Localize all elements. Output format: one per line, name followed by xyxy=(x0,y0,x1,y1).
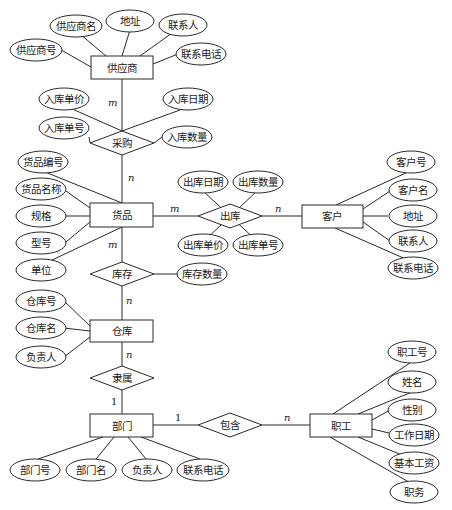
entity-label: 客户 xyxy=(322,210,342,222)
cardinality-outbound-goods: m xyxy=(170,203,179,214)
svg-text:供应商号: 供应商号 xyxy=(16,44,56,56)
relationship-purchase: 采购 xyxy=(90,131,154,155)
attribute-customer-address: 地址 xyxy=(389,205,437,227)
entity-warehouse: 仓库 xyxy=(90,320,153,342)
attribute-outbound-qty: 出库数量 xyxy=(233,171,283,193)
svg-text:部门号: 部门号 xyxy=(20,464,50,476)
attribute-outbound-id: 出库单号 xyxy=(233,234,283,256)
entity-employee: 职工 xyxy=(310,414,372,437)
attribute-supplier-contact: 联系人 xyxy=(159,14,207,36)
svg-text:入库日期: 入库日期 xyxy=(168,93,208,105)
svg-text:出库数量: 出库数量 xyxy=(238,176,279,188)
relationship-label: 包含 xyxy=(220,419,241,431)
attribute-inbound-price: 入库单价 xyxy=(39,88,89,110)
svg-text:入库数量: 入库数量 xyxy=(167,131,208,143)
svg-text:职务: 职务 xyxy=(404,486,425,498)
attribute-supplier-address: 地址 xyxy=(106,10,154,32)
attribute-dept-id: 部门号 xyxy=(10,459,60,481)
attribute-employee-title: 职务 xyxy=(390,481,438,503)
svg-text:联系电话: 联系电话 xyxy=(183,464,224,476)
svg-text:工作日期: 工作日期 xyxy=(394,429,434,441)
entity-label: 部门 xyxy=(112,420,132,432)
cardinality-contains-employee: n xyxy=(284,412,290,423)
svg-text:基本工资: 基本工资 xyxy=(394,457,434,469)
attribute-unit: 单位 xyxy=(16,259,66,281)
svg-text:姓名: 姓名 xyxy=(402,376,422,388)
relationship-outbound: 出库 xyxy=(198,204,262,228)
svg-text:联系人: 联系人 xyxy=(168,19,199,31)
attribute-outbound-price: 出库单价 xyxy=(178,234,228,256)
svg-text:型号: 型号 xyxy=(31,237,51,249)
relationship-stock: 库存 xyxy=(90,262,154,286)
entity-label: 供应商 xyxy=(107,62,137,74)
attribute-customer-contact: 联系人 xyxy=(389,230,437,252)
attribute-employee-gender: 性别 xyxy=(388,399,436,421)
svg-text:库存数量: 库存数量 xyxy=(182,268,223,280)
cardinality-contains-department: 1 xyxy=(175,412,181,423)
relationship-label: 采购 xyxy=(112,137,132,149)
entity-goods: 货品 xyxy=(90,203,153,227)
relationship-label: 库存 xyxy=(112,268,133,280)
attribute-employee-salary: 基本工资 xyxy=(389,452,439,474)
relationship-contains: 包含 xyxy=(198,413,262,437)
attribute-goods-id: 货品编号 xyxy=(18,151,68,173)
svg-text:单位: 单位 xyxy=(31,264,52,276)
entity-label: 职工 xyxy=(331,420,351,432)
svg-text:仓库名: 仓库名 xyxy=(26,322,56,334)
svg-text:地址: 地址 xyxy=(403,210,424,222)
entity-label: 货品 xyxy=(112,209,132,221)
cardinality-outbound-customer: n xyxy=(275,203,281,214)
svg-text:货品名称: 货品名称 xyxy=(21,183,62,195)
er-diagram: 供应商 货品 客户 仓库 部门 职工 采购 出库 库存 隶属 包含 xyxy=(0,0,452,510)
attribute-supplier-phone: 联系电话 xyxy=(176,43,226,65)
svg-text:出库单价: 出库单价 xyxy=(183,239,224,251)
attribute-dept-name: 部门名 xyxy=(66,459,116,481)
svg-text:联系电话: 联系电话 xyxy=(181,48,222,60)
svg-text:性别: 性别 xyxy=(402,404,422,416)
cardinality-stock-goods: m xyxy=(108,239,117,250)
svg-text:供应商名: 供应商名 xyxy=(56,20,96,32)
svg-text:职工号: 职工号 xyxy=(397,346,427,358)
attribute-warehouse-manager: 负责人 xyxy=(16,346,66,368)
attribute-customer-id: 客户号 xyxy=(387,151,435,173)
svg-text:联系电话: 联系电话 xyxy=(393,262,434,274)
svg-text:负责人: 负责人 xyxy=(132,464,163,476)
relationship-label: 隶属 xyxy=(112,372,132,384)
relationship-label: 出库 xyxy=(220,210,240,222)
attribute-outbound-date: 出库日期 xyxy=(178,171,228,193)
cardinality-purchase-goods: n xyxy=(128,172,134,183)
attribute-dept-manager: 负责人 xyxy=(122,459,172,481)
svg-text:出库日期: 出库日期 xyxy=(183,176,223,188)
svg-text:货品编号: 货品编号 xyxy=(23,156,63,168)
attribute-inbound-qty: 入库数量 xyxy=(162,126,212,148)
entity-label: 仓库 xyxy=(112,325,132,337)
cardinality-belongs-department: 1 xyxy=(111,396,117,407)
attribute-dept-phone: 联系电话 xyxy=(177,459,229,481)
attribute-employee-name: 姓名 xyxy=(388,371,436,393)
relationship-belongs: 隶属 xyxy=(90,366,154,390)
attribute-supplier-id: 供应商号 xyxy=(10,39,62,61)
attribute-goods-name: 货品名称 xyxy=(16,178,66,200)
svg-text:入库单号: 入库单号 xyxy=(44,122,84,134)
svg-text:客户名: 客户名 xyxy=(398,184,428,196)
attribute-stock-qty: 库存数量 xyxy=(177,263,227,285)
svg-text:负责人: 负责人 xyxy=(26,351,57,363)
attribute-employee-workdate: 工作日期 xyxy=(389,424,439,446)
svg-text:联系人: 联系人 xyxy=(398,235,429,247)
attribute-supplier-name: 供应商名 xyxy=(50,15,102,37)
attribute-warehouse-name: 仓库名 xyxy=(16,317,66,339)
attribute-warehouse-id: 仓库号 xyxy=(16,290,66,312)
svg-text:仓库号: 仓库号 xyxy=(26,295,56,307)
svg-text:出库单号: 出库单号 xyxy=(238,239,278,251)
svg-text:规格: 规格 xyxy=(31,210,52,222)
attribute-customer-name: 客户名 xyxy=(389,179,437,201)
svg-text:部门名: 部门名 xyxy=(76,464,106,476)
cardinality-stock-warehouse: n xyxy=(126,295,132,306)
cardinality-belongs-warehouse: n xyxy=(126,349,132,360)
svg-text:地址: 地址 xyxy=(120,15,141,27)
attribute-spec: 规格 xyxy=(16,205,66,227)
svg-text:入库单价: 入库单价 xyxy=(44,93,85,105)
entity-supplier: 供应商 xyxy=(91,56,153,79)
attribute-customer-phone: 联系电话 xyxy=(388,257,438,279)
attribute-inbound-date: 入库日期 xyxy=(163,88,213,110)
